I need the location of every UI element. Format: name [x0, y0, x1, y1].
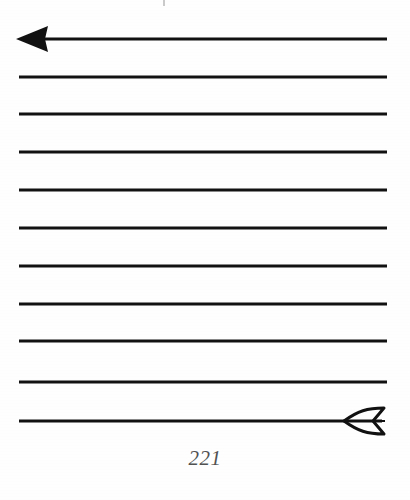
page-number: 221 — [0, 446, 410, 471]
scanned-page: 221 — [0, 0, 410, 500]
arrowhead-triangle — [16, 26, 48, 52]
figure-svg — [0, 0, 410, 440]
ruled-line-group — [19, 39, 387, 421]
outlined-arrow-fletching — [344, 408, 385, 434]
solid-left-arrowhead — [16, 26, 48, 52]
figure-arrow-lines — [0, 0, 410, 440]
